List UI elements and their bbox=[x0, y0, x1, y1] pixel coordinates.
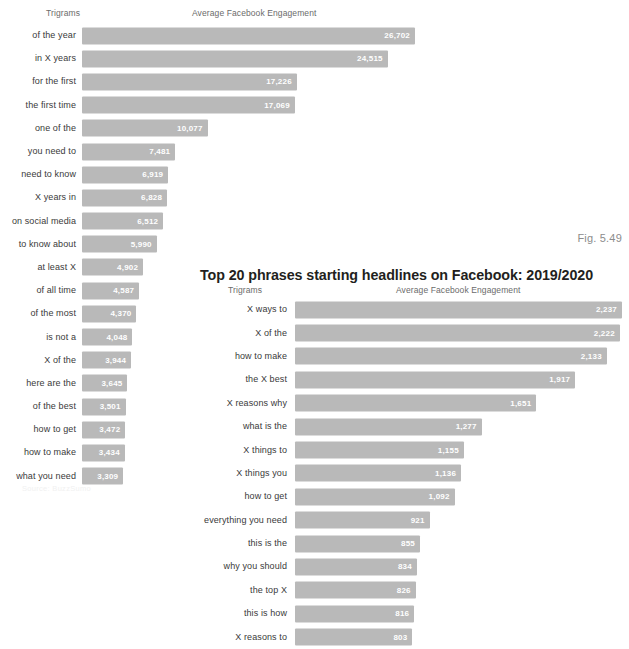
bar-value-label: 10,077 bbox=[177, 124, 208, 132]
bar-row: X reasons to803 bbox=[180, 625, 629, 648]
bar-value-label: 4,902 bbox=[117, 263, 143, 271]
bar-value-label: 3,309 bbox=[97, 472, 123, 480]
bar-category-label: this is how bbox=[180, 609, 295, 618]
bar-value-label: 921 bbox=[411, 516, 430, 524]
bar-track: 6,828 bbox=[82, 186, 440, 209]
bar-value-label: 24,515 bbox=[357, 55, 388, 63]
bar-row: X reasons why1,651 bbox=[180, 392, 629, 415]
bar-row: X of the2,222 bbox=[180, 321, 629, 344]
bar-category-label: X ways to bbox=[180, 305, 295, 314]
bar-row: how to make2,133 bbox=[180, 345, 629, 368]
right-category-axis-label: Trigrams bbox=[228, 285, 262, 295]
bar: 6,828 bbox=[82, 189, 167, 206]
bar-category-label: the X best bbox=[180, 375, 295, 384]
left-chart-axis-header: Trigrams Average Facebook Engagement bbox=[0, 0, 440, 24]
bar: 826 bbox=[295, 582, 416, 599]
bar-track: 2,222 bbox=[295, 321, 629, 344]
bar-row: in X years24,515 bbox=[0, 47, 440, 70]
bar-category-label: how to get bbox=[0, 425, 82, 434]
bar-track: 10,077 bbox=[82, 117, 440, 140]
bar-value-label: 3,944 bbox=[105, 356, 131, 364]
bar: 1,155 bbox=[295, 442, 464, 459]
bar-category-label: you need to bbox=[0, 147, 82, 156]
bar-value-label: 6,919 bbox=[142, 171, 168, 179]
bar: 1,277 bbox=[295, 418, 482, 435]
bar: 2,237 bbox=[295, 301, 622, 318]
bar: 1,136 bbox=[295, 465, 461, 482]
bar-row: you need to7,481 bbox=[0, 140, 440, 163]
bar-value-label: 1,155 bbox=[438, 446, 464, 454]
bar-track: 2,133 bbox=[295, 345, 629, 368]
bar-category-label: of the year bbox=[0, 31, 82, 40]
bar-category-label: on social media bbox=[0, 217, 82, 226]
bar-row: the X best1,917 bbox=[180, 368, 629, 391]
bar-value-label: 6,828 bbox=[141, 194, 167, 202]
bar: 1,651 bbox=[295, 395, 536, 412]
bar-track: 855 bbox=[295, 532, 629, 555]
bar-category-label: is not a bbox=[0, 333, 82, 342]
bar-row: one of the10,077 bbox=[0, 117, 440, 140]
bar-category-label: everything you need bbox=[180, 516, 295, 525]
bar-value-label: 26,702 bbox=[384, 32, 415, 40]
bar-value-label: 855 bbox=[401, 540, 420, 548]
bar: 2,222 bbox=[295, 325, 620, 342]
bar-value-label: 7,481 bbox=[149, 148, 175, 156]
bar-track: 7,481 bbox=[82, 140, 440, 163]
bar-row: X things you1,136 bbox=[180, 462, 629, 485]
bar-value-label: 1,651 bbox=[510, 399, 536, 407]
bar: 4,587 bbox=[82, 282, 139, 299]
bar: 24,515 bbox=[82, 50, 388, 67]
bar: 3,434 bbox=[82, 444, 125, 461]
bar-value-label: 826 bbox=[397, 586, 416, 594]
bar-category-label: X reasons why bbox=[180, 399, 295, 408]
bar: 4,048 bbox=[82, 329, 132, 346]
bar-value-label: 17,226 bbox=[266, 78, 297, 86]
bar-track: 1,155 bbox=[295, 438, 629, 461]
bar-track: 816 bbox=[295, 602, 629, 625]
bar-category-label: how to get bbox=[180, 492, 295, 501]
bar: 7,481 bbox=[82, 143, 175, 160]
bar-category-label: X things to bbox=[180, 446, 295, 455]
left-category-axis-label: Trigrams bbox=[46, 8, 80, 18]
bar-category-label: the top X bbox=[180, 586, 295, 595]
bar-value-label: 1,092 bbox=[429, 493, 455, 501]
bar-row: the first time17,069 bbox=[0, 94, 440, 117]
bar: 3,944 bbox=[82, 352, 131, 369]
bar-value-label: 4,370 bbox=[110, 310, 136, 318]
bar-row: X things to1,155 bbox=[180, 438, 629, 461]
bar-track: 921 bbox=[295, 509, 629, 532]
bar-category-label: at least X bbox=[0, 263, 82, 272]
bar-value-label: 4,048 bbox=[106, 333, 132, 341]
bar: 3,645 bbox=[82, 375, 127, 392]
bar-value-label: 803 bbox=[393, 633, 412, 641]
right-bar-chart: Fig. 5.49 Top 20 phrases starting headli… bbox=[180, 232, 629, 649]
bar-value-label: 1,136 bbox=[435, 469, 461, 477]
bar-track: 17,069 bbox=[82, 94, 440, 117]
bar-category-label: of the most bbox=[0, 309, 82, 318]
left-value-axis-label: Average Facebook Engagement bbox=[192, 8, 316, 18]
bar: 1,917 bbox=[295, 371, 575, 388]
bar: 4,902 bbox=[82, 259, 143, 276]
bar-track: 1,092 bbox=[295, 485, 629, 508]
bar-value-label: 2,133 bbox=[581, 352, 607, 360]
bar-row: X years in6,828 bbox=[0, 186, 440, 209]
bar-category-label: X of the bbox=[180, 329, 295, 338]
bar-track: 17,226 bbox=[82, 70, 440, 93]
bar-row: for the first17,226 bbox=[0, 70, 440, 93]
bar-value-label: 3,501 bbox=[100, 403, 126, 411]
bar-track: 803 bbox=[295, 625, 629, 648]
bar-row: what is the1,277 bbox=[180, 415, 629, 438]
bar: 921 bbox=[295, 512, 430, 529]
bar: 816 bbox=[295, 605, 414, 622]
bar-value-label: 3,472 bbox=[99, 426, 125, 434]
bar-category-label: need to know bbox=[0, 170, 82, 179]
bar-track: 826 bbox=[295, 579, 629, 602]
bar-category-label: why you should bbox=[180, 562, 295, 571]
bar-value-label: 834 bbox=[398, 563, 417, 571]
bar-category-label: what you need bbox=[0, 472, 82, 481]
bar-track: 26,702 bbox=[82, 24, 440, 47]
bar-row: how to get1,092 bbox=[180, 485, 629, 508]
bar-track: 1,651 bbox=[295, 392, 629, 415]
bar-row: of the year26,702 bbox=[0, 24, 440, 47]
bar-category-label: here are the bbox=[0, 379, 82, 388]
